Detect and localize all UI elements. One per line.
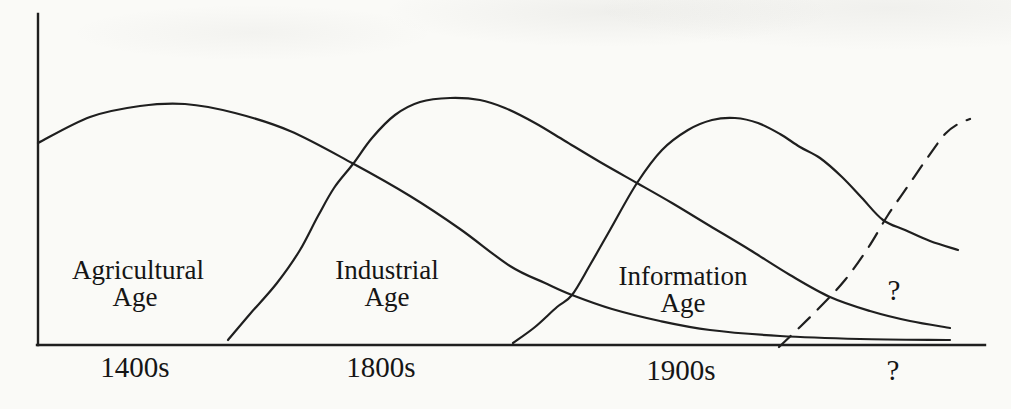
ages-lifecycle-chart: Agricultural Age Industrial Age Informat… — [0, 0, 1011, 409]
future-age-question-mark: ? — [888, 274, 901, 306]
curves — [38, 98, 970, 347]
x-tick-1400s: 1400s — [100, 351, 169, 383]
information-age-label-line2: Age — [661, 288, 706, 318]
industrial-curve — [228, 98, 950, 340]
x-tick-question-mark: ? — [887, 354, 900, 386]
agricultural-curve — [38, 103, 950, 340]
x-tick-labels: 1400s 1800s 1900s ? — [100, 351, 899, 386]
era-labels: Agricultural Age Industrial Age Informat… — [72, 255, 900, 318]
chart-canvas: Agricultural Age Industrial Age Informat… — [0, 0, 1011, 409]
agricultural-age-label-line2: Age — [113, 282, 158, 312]
axes — [37, 14, 985, 345]
x-tick-1800s: 1800s — [346, 351, 415, 383]
industrial-age-label-line1: Industrial — [335, 255, 438, 285]
agricultural-age-label-line1: Agricultural — [72, 255, 204, 285]
information-age-label-line1: Information — [619, 261, 748, 291]
information-curve — [513, 118, 958, 343]
x-tick-1900s: 1900s — [646, 354, 715, 386]
industrial-age-label-line2: Age — [365, 282, 410, 312]
